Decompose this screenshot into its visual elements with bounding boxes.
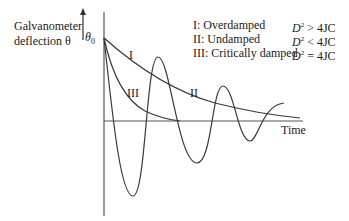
legend-var: D	[292, 49, 301, 63]
theta-subscript: 0	[91, 37, 95, 46]
x-axis-label: Time	[281, 123, 306, 138]
legend-critically-damped-label: III: Critically damped	[193, 46, 298, 60]
curve-label-II: II	[190, 86, 198, 101]
legend-undamped-label: II: Undamped	[193, 32, 260, 46]
legend-critically-damped-condition: D2 = 4JC	[292, 46, 336, 63]
curve-label-III: III	[127, 86, 139, 101]
legend-cond-text: = 4JC	[304, 49, 335, 63]
y-axis-label-line2: deflection θ	[14, 34, 71, 49]
y-axis-label-line1: Galvanometer	[14, 19, 82, 34]
curve-label-I: I	[129, 48, 133, 63]
theta-zero-label: θ0	[85, 30, 95, 46]
legend-overdamped-label: I: Overdamped	[193, 18, 265, 32]
